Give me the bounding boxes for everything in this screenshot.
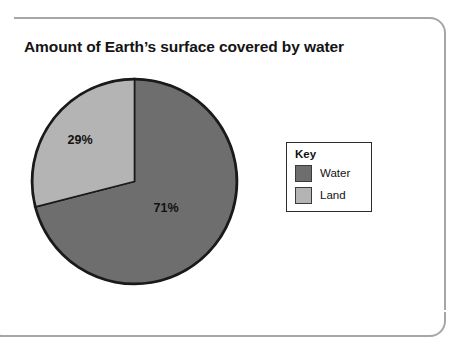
legend-swatch-water xyxy=(295,165,312,182)
legend-label-water: Water xyxy=(320,168,350,180)
legend-title: Key xyxy=(295,148,316,160)
page-title: Amount of Earth’s surface covered by wat… xyxy=(24,38,344,56)
pie-label-water: 71% xyxy=(153,201,178,215)
pie-chart: 71% 29% xyxy=(30,77,239,286)
pie-label-land: 29% xyxy=(67,133,92,147)
legend-item-water: Water xyxy=(295,165,350,182)
pie-chart-svg: 71% 29% xyxy=(30,77,239,286)
legend-item-land: Land xyxy=(295,187,346,204)
legend: Key Water Land xyxy=(286,142,372,212)
legend-label-land: Land xyxy=(320,190,346,202)
legend-swatch-land xyxy=(295,187,312,204)
